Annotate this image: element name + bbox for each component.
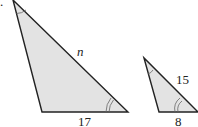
small-base-label: 8 — [175, 114, 182, 127]
large-hypotenuse-label: n — [77, 44, 84, 59]
small-hypotenuse-label: 15 — [176, 72, 189, 87]
large-base-label: 17 — [78, 114, 92, 127]
large-triangle-shape — [13, 0, 128, 112]
small-triangle: 15 8 — [144, 58, 198, 127]
similar-triangles-diagram: . n 17 15 8 — [0, 0, 198, 127]
problem-marker: . — [0, 0, 3, 9]
large-triangle: n 17 — [13, 0, 128, 127]
small-triangle-shape — [144, 58, 198, 112]
